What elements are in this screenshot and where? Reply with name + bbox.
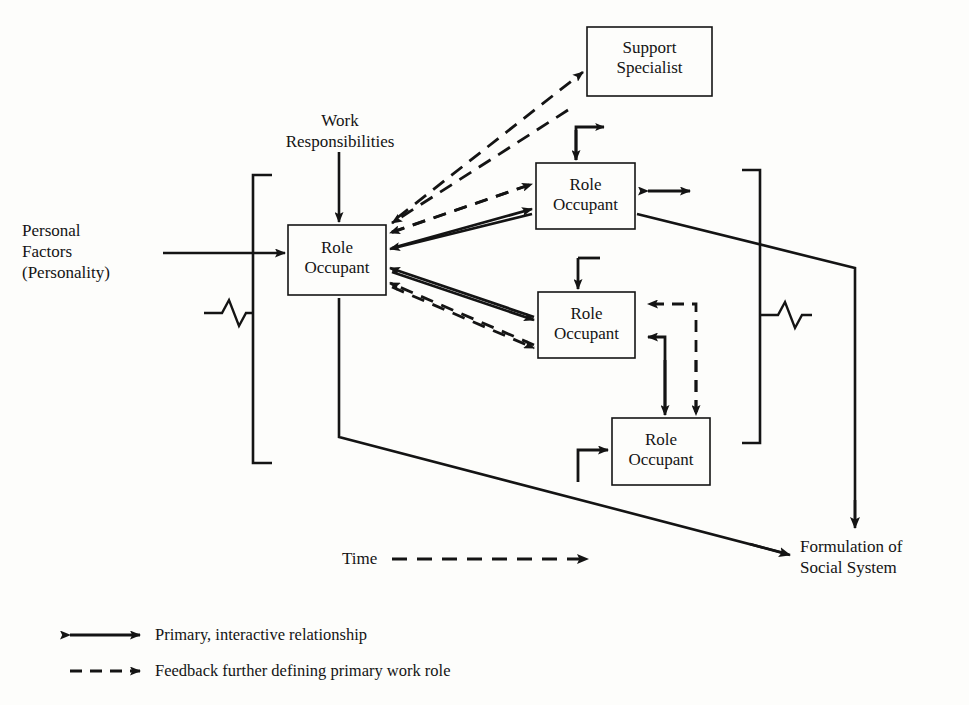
formulation-line1: Formulation of	[800, 536, 965, 557]
work-responsibilities-line1: Work	[245, 110, 435, 131]
legend-primary-text: Primary, interactive relationship	[155, 625, 367, 644]
label-work-responsibilities: Work Responsibilities	[245, 110, 435, 152]
personal-factors-line2: Factors	[22, 241, 187, 262]
legend-feedback-text: Feedback further defining primary work r…	[155, 661, 451, 680]
label-formulation-social-system: Formulation of Social System	[800, 536, 965, 578]
formulation-line2: Social System	[800, 557, 965, 578]
label-time: Time	[342, 548, 377, 569]
arrow-ro1-to-role-occupant-dashed	[390, 185, 529, 233]
time-text: Time	[342, 549, 377, 568]
left-bracket-zigzag-icon	[204, 300, 253, 326]
box-role-occupant-main	[288, 225, 386, 295]
diagram-canvas: Support Specialist Role Occupant Role Oc…	[0, 0, 969, 705]
right-bracket-zigzag-icon	[760, 302, 812, 328]
box-role-occupant-3	[612, 418, 710, 485]
legend-feedback-label: Feedback further defining primary work r…	[155, 661, 451, 681]
box-role-occupant-1	[536, 163, 635, 229]
personal-factors-line3: (Personality)	[22, 262, 187, 283]
personal-factors-line1: Personal	[22, 220, 187, 241]
arrow-ro3-to-ro2-dashed-feedback	[648, 304, 696, 412]
diagram-svg	[0, 0, 969, 705]
selfloop-ro3-icon	[578, 450, 608, 482]
legend-primary-label: Primary, interactive relationship	[155, 625, 367, 645]
selfloop-ro1-icon	[576, 127, 604, 160]
selfloop-ro2-icon	[578, 258, 600, 289]
label-personal-factors: Personal Factors (Personality)	[22, 220, 187, 283]
box-role-occupant-2	[538, 292, 635, 358]
work-responsibilities-line2: Responsibilities	[245, 131, 435, 152]
arrow-ro3-to-ro2-solid-feedback	[648, 337, 665, 412]
right-bracket	[742, 170, 760, 443]
arrow-ro1-to-role-occupant-solid	[390, 214, 532, 249]
left-bracket	[253, 175, 272, 463]
box-support-specialist	[587, 27, 712, 96]
